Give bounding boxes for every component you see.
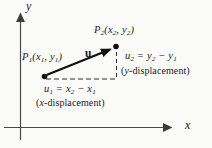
- x-displacement-caption: (x-displacement): [36, 98, 105, 108]
- caption-text: -displacement): [44, 97, 105, 108]
- caption-text: -displacement): [129, 65, 190, 76]
- point-p1: [42, 74, 48, 80]
- vector-u-label: u: [85, 48, 92, 60]
- y-component-equation: u2 = y2 − y1: [125, 51, 177, 62]
- vector-displacement-diagram: y x P1(x1, y1) P2(x2, y2) u u2 = y2 − y1…: [0, 0, 212, 148]
- point-p2-label: P2(x2, y2): [94, 25, 134, 36]
- point-p2: [113, 44, 119, 50]
- x-axis-label: x: [185, 119, 191, 131]
- x-component-equation: u1 = x2 − x1: [44, 84, 96, 95]
- y-displacement-caption: (y-displacement): [121, 66, 190, 76]
- point-p1-label: P1(x1, y1): [22, 52, 62, 63]
- y-axis-label: y: [26, 0, 32, 12]
